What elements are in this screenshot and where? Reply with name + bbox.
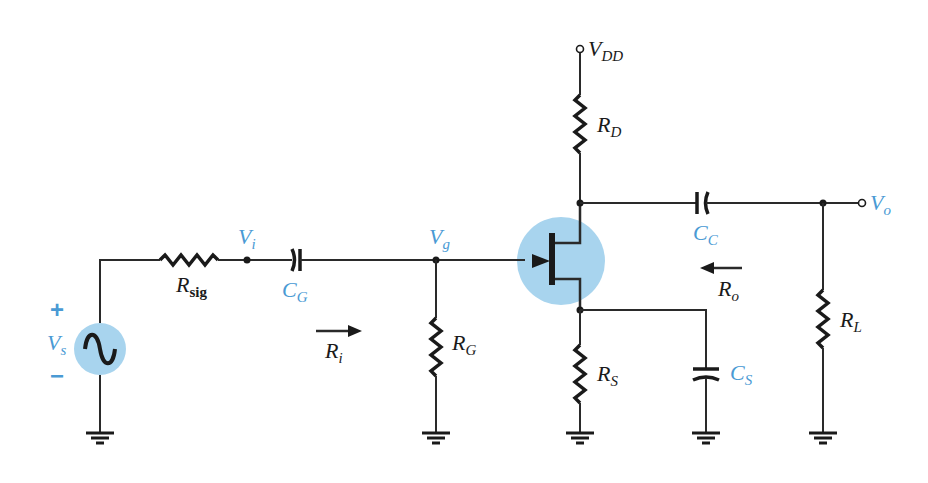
label-cs: CS [730, 360, 753, 388]
label-vg: Vg [429, 224, 450, 252]
label-cg: CG [282, 277, 308, 305]
label-vi: Vi [238, 224, 256, 252]
label-ro: Ro [717, 276, 739, 304]
label-rsig: Rsig [175, 272, 207, 300]
ground-icon [692, 433, 720, 443]
wire-source-cs [580, 310, 706, 368]
label-vs: Vs [47, 330, 66, 358]
capacitor-cg-plate-curved [292, 249, 295, 271]
ground-icon [809, 433, 837, 443]
resistor-rs [575, 345, 585, 403]
label-ri: Ri [324, 338, 343, 366]
ground-icon [86, 433, 114, 443]
terminal-vo [859, 200, 866, 207]
label-vdd: VDD [588, 36, 623, 64]
resistor-rg [431, 318, 441, 376]
resistor-rl [818, 290, 828, 348]
ri-arrow-icon [316, 325, 362, 337]
label-rs: RS [596, 361, 618, 389]
label-rd: RD [596, 112, 621, 140]
label-cc: CC [693, 220, 719, 248]
node-vi [244, 257, 251, 264]
label-rg: RG [451, 330, 476, 358]
resistor-rsig [160, 255, 218, 265]
circuit-diagram: VDD RD Rsig Vi CG Vg Ri RG CC Vo Ro RS C… [0, 0, 928, 483]
jfet-highlight [517, 217, 605, 305]
resistor-rd [575, 95, 585, 153]
label-vo: Vo [870, 190, 891, 218]
wire-source-top [100, 260, 160, 323]
ground-icon [566, 433, 594, 443]
label-minus: − [50, 362, 64, 389]
ground-icon [422, 433, 450, 443]
label-rl: RL [839, 307, 862, 335]
label-plus: + [50, 296, 64, 323]
terminal-vdd [577, 46, 584, 53]
ro-arrow-icon [700, 262, 742, 274]
